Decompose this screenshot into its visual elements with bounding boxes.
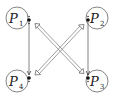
port-dot-icon [87, 16, 89, 18]
node-p3: P 3 [86, 70, 108, 92]
node-p4-label: P [8, 74, 18, 89]
port-dot-icon [28, 23, 30, 25]
node-p1: P 1 [6, 7, 31, 29]
port-dot-icon [27, 76, 31, 80]
edge-p2-p3 [86, 22, 90, 75]
node-p4-subscript: 4 [19, 83, 24, 91]
node-p4: P 4 [6, 70, 31, 92]
port-dot-icon [87, 81, 89, 83]
node-p1-label: P [8, 11, 18, 26]
node-p2-subscript: 2 [100, 20, 104, 28]
process-diagram: P 1 P 2 P 3 P 4 [0, 0, 115, 103]
edge-p1-p4 [27, 22, 31, 75]
node-p3-subscript: 3 [100, 83, 104, 91]
port-dot-icon [27, 18, 31, 22]
edge-p2-p4 [35, 25, 84, 76]
node-p2: P 2 [86, 7, 108, 29]
port-dot-icon [28, 81, 30, 83]
node-p2-label: P [89, 11, 99, 26]
port-dot-icon [86, 18, 90, 22]
port-dot-icon [87, 74, 89, 76]
port-dot-icon [86, 76, 90, 80]
port-dot-icon [28, 16, 30, 18]
node-p1-subscript: 1 [19, 20, 23, 28]
node-p3-label: P [89, 74, 99, 89]
